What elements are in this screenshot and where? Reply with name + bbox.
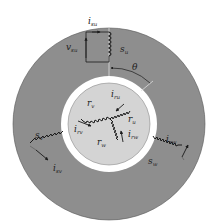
label-i-su: isu [88, 16, 98, 27]
machine-diagram: θ isu vsu su sv isv isw sw iru ru rv irv [0, 0, 218, 224]
theta-label: θ [132, 62, 138, 72]
rotor [68, 83, 150, 165]
